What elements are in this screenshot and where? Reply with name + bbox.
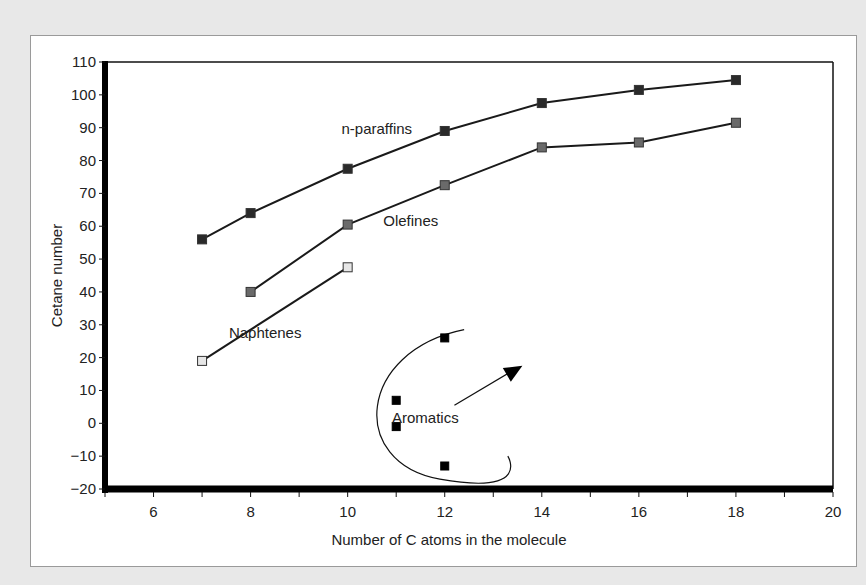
n-paraffins-annotation: n-paraffins (341, 120, 412, 137)
naphtenes-marker (343, 263, 352, 272)
y-tick-label: 30 (79, 316, 96, 333)
x-tick-label: 12 (436, 503, 453, 520)
n-paraffins-marker (440, 126, 449, 135)
x-tick-label: 14 (533, 503, 550, 520)
y-tick-label: 110 (72, 53, 96, 70)
x-tick-label: 6 (149, 503, 157, 520)
y-tick-label: 20 (79, 349, 96, 366)
y-tick-label: 100 (71, 86, 96, 103)
olefines-marker (440, 181, 449, 190)
n-paraffins-marker (198, 235, 207, 244)
trend-arrow-head-icon (503, 366, 523, 382)
olefines-marker (246, 287, 255, 296)
x-tick-label: 16 (631, 503, 648, 520)
naphtenes-line (202, 267, 348, 361)
y-tick-label: −20 (71, 480, 96, 497)
naphtenes-marker (198, 356, 207, 365)
aromatics-region-curve (377, 330, 511, 483)
n-paraffins-marker (246, 209, 255, 218)
aromatics-marker (392, 396, 400, 404)
y-tick-label: 50 (79, 250, 96, 267)
x-axis-label: Number of C atoms in the molecule (331, 531, 566, 548)
naphtenes-annotation: Naphtenes (229, 324, 302, 341)
olefines-marker (537, 143, 546, 152)
aromatics-marker (441, 462, 449, 470)
y-tick-label: 80 (79, 152, 96, 169)
y-tick-label: −10 (71, 447, 96, 464)
olefines-marker (634, 138, 643, 147)
y-tick-label: 0 (88, 414, 96, 431)
olefines-marker (731, 118, 740, 127)
olefines-annotation: Olefines (383, 212, 438, 229)
olefines-line (251, 123, 736, 292)
n-paraffins-marker (537, 99, 546, 108)
y-tick-label: 60 (79, 217, 96, 234)
n-paraffins-marker (634, 85, 643, 94)
n-paraffins-marker (731, 76, 740, 85)
y-tick-label: 90 (79, 119, 96, 136)
aromatics-annotation: Aromatics (392, 409, 459, 426)
trend-arrow-shaft (454, 371, 512, 405)
y-tick-label: 40 (79, 283, 96, 300)
x-tick-label: 18 (728, 503, 745, 520)
y-axis-label: Cetane number (48, 224, 65, 327)
x-tick-label: 20 (825, 503, 842, 520)
n-paraffins-line (202, 80, 736, 239)
y-tick-label: 10 (79, 381, 96, 398)
chart: 1101009080706050403020100−10−20681012141… (0, 0, 866, 585)
x-tick-label: 10 (339, 503, 356, 520)
n-paraffins-marker (343, 164, 352, 173)
x-tick-label: 8 (246, 503, 254, 520)
y-tick-label: 70 (79, 184, 96, 201)
aromatics-marker (441, 334, 449, 342)
olefines-marker (343, 220, 352, 229)
